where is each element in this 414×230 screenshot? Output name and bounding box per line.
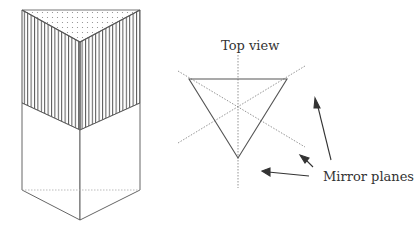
arrow-to-diagonal-upper	[317, 103, 331, 160]
arrows	[262, 98, 331, 176]
mirror-plane-diagonal-1	[178, 71, 305, 147]
top-view-label: Top view	[221, 38, 279, 53]
arrowhead-left	[262, 168, 270, 176]
mirror-plane-diagonal-2	[178, 66, 305, 143]
top-view-diagram	[178, 55, 305, 188]
mirror-planes-label: Mirror planes	[323, 169, 414, 184]
arrow-to-vertical	[268, 172, 309, 176]
arrowhead-upper	[314, 98, 320, 108]
triangular-prism	[22, 10, 140, 220]
